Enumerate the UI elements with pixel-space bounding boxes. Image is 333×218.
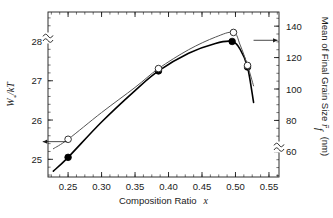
data-point-open bbox=[155, 65, 162, 72]
series-left bbox=[53, 38, 253, 171]
plot-frame bbox=[48, 12, 279, 177]
x-axis-label-text: Composition Ratiox bbox=[119, 195, 209, 206]
axis-ticks: 0.250.300.350.400.450.500.55252627286080… bbox=[31, 12, 301, 192]
y-right-axis-label: Mean of Final Grain Size r̄f(nm) bbox=[315, 17, 332, 156]
y-right-axis-label-text: Mean of Final Grain Size r̄f(nm) bbox=[315, 17, 332, 156]
data-point-open bbox=[244, 62, 251, 69]
data-point-filled bbox=[229, 38, 236, 45]
left-axis-break bbox=[43, 33, 53, 44]
y-left-axis-label: W*/kT bbox=[5, 81, 20, 107]
x-tick-label: 0.35 bbox=[126, 181, 145, 192]
x-tick-label: 0.25 bbox=[59, 181, 78, 192]
y-left-tick-label: 25 bbox=[31, 154, 42, 165]
series-right bbox=[53, 29, 253, 149]
x-tick-label: 0.30 bbox=[92, 181, 111, 192]
x-tick-label: 0.50 bbox=[226, 181, 245, 192]
series-line bbox=[53, 32, 253, 149]
y-right-tick-label: 100 bbox=[286, 84, 302, 95]
x-tick-label: 0.40 bbox=[159, 181, 178, 192]
y-right-tick-label: 60 bbox=[286, 146, 297, 157]
series-line bbox=[53, 41, 253, 171]
y-left-axis-label-text: W*/kT bbox=[5, 81, 20, 107]
right-axis-arrow bbox=[254, 38, 278, 42]
x-axis-label: Composition Ratiox bbox=[119, 195, 209, 206]
figure-container: 0.250.300.350.400.450.500.55252627286080… bbox=[0, 0, 333, 218]
right-axis-break bbox=[274, 142, 284, 153]
x-tick-label: 0.55 bbox=[260, 181, 279, 192]
y-left-tick-label: 26 bbox=[31, 115, 42, 126]
y-right-tick-label: 120 bbox=[286, 52, 302, 63]
y-left-tick-label: 28 bbox=[31, 36, 42, 47]
chart-svg: 0.250.300.350.400.450.500.55252627286080… bbox=[0, 0, 333, 218]
data-point-open bbox=[230, 29, 237, 36]
x-tick-label: 0.45 bbox=[193, 181, 212, 192]
left-axis-arrow-head bbox=[43, 140, 48, 144]
y-right-tick-label: 140 bbox=[286, 21, 302, 32]
y-left-tick-label: 27 bbox=[31, 75, 42, 86]
y-right-tick-label: 80 bbox=[286, 115, 297, 126]
data-point-filled bbox=[65, 154, 72, 161]
